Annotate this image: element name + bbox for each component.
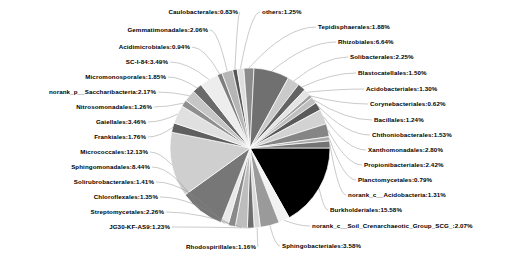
pie-label-streptomycetales: Streptomycetales:2.26% [54,208,164,216]
pie-leader-line [150,152,172,165]
pie-label-caulobacterales: Caulobacterales:0.83% [136,8,238,16]
pie-label-acidobacteriales: Acidobacteriales:1.30% [366,85,474,93]
pie-label-burkholderiales: Burkholderiales:15.58% [330,206,438,214]
pie-label-sphingomonadales: Sphingomonadales:8.44% [38,163,150,171]
pie-label-tepidisphaerales: Tepidisphaerales:1.88% [318,23,426,31]
pie-label-soil-crenarchaeotic-group: norank_c__Soil_Crenarchaeotic_Group_SCG_… [312,222,512,230]
pie-label-blastocatellales: Blastocatellales:1.50% [358,69,462,77]
pie-leader-line [307,89,364,92]
pie-leader-line [319,188,328,210]
pie-label-norank-saccharibacteria: norank_p__Saccharibacteria:2.17% [16,88,156,96]
pie-leader-line [302,73,356,87]
pie-leader-line [192,47,220,74]
pie-leader-line [270,226,280,247]
pie-label-gemmatimonadales: Gemmatimonadales:2.06% [96,26,208,34]
pie-label-bacillales: Bacillales:1.24% [374,116,456,124]
pie-label-solibacterales: Solibacterales:2.25% [350,53,450,61]
pie-label-rhizobiales: Rhizobiales:6.64% [338,38,432,46]
pie-label-planctomycetales: Planctomycetales:0.79% [358,176,470,184]
pie-leader-line [284,220,310,226]
pie-leader-line [235,12,240,69]
pie-leader-line [311,96,368,104]
pie-label-sphingobacteriales: Sphingobacteriales:3.58% [282,242,402,250]
pie-leader-line [210,30,227,71]
pie-leader-line [272,42,336,71]
pie-label-propionibacteriales: Propionibacteriales:2.42% [364,161,484,169]
pie-leader-line [158,92,190,96]
pie-leader-line [240,12,260,69]
pie-label-gaiellales: Gaiellales:3.46% [66,118,146,126]
pie-leader-line [330,139,357,180]
pie-leader-line [170,62,209,79]
pie-label-rhodospirillales: Rhodospirillales:1.16% [156,243,256,251]
pie-label-others: others:1.25% [262,8,332,16]
pie-label-acidimicrobiales: Acidimicrobiales:0.94% [86,43,190,51]
pie-label-sc-i-84: SC-I-84:3.49% [92,58,168,66]
pie-label-norank-acidobacteria: norank_c__Acidobacteria:1.31% [348,191,482,199]
pie-label-micrococcales: Micrococcales:12.13% [48,148,148,156]
pie-leader-line [257,228,258,247]
pie-label-solirubrobacterales: Solirubrobacterales:1.41% [38,178,154,186]
pie-label-micromonosporales: Micromonosporales:1.85% [52,73,166,81]
pie-label-xanthomonadales: Xanthomonadales:2.80% [368,146,482,154]
pie-leader-line [328,130,362,165]
pie-label-frankiales: Frankiales:1.76% [66,133,146,141]
pie-label-corynebacteriales: Corynebacteriales:0.62% [370,100,482,108]
pie-leader-line [154,103,184,107]
pie-chart-figure: Caulobacterales:0.83% Gemmatimonadales:2… [0,0,518,266]
pie-label-jg30-kf-as9: JG30-KF-AS9:1.23% [86,223,170,231]
pie-leader-line [294,57,348,81]
pie-leader-line [148,114,178,122]
pie-label-chloroflexales: Chloroflexales:1.35% [62,193,158,201]
pie-leader-line [249,27,316,68]
pie-label-nitrosomonadales: Nitrosomonadales:1.26% [48,103,152,111]
pie-leader-line [148,128,173,138]
pie-label-chthoniobacterales: Chthoniobacterales:1.53% [372,131,492,139]
pie-leader-line [168,77,197,88]
